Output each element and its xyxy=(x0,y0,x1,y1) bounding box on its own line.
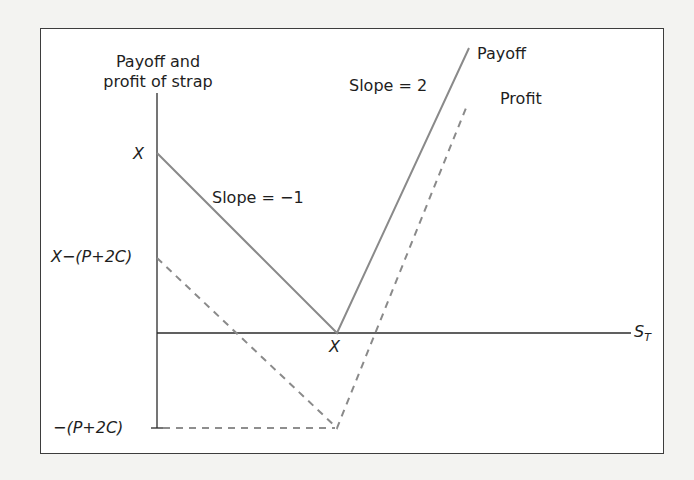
y-axis-title-line1: Payoff and xyxy=(88,52,228,72)
profit-label: Profit xyxy=(500,91,542,107)
y-axis-title: Payoff and profit of strap xyxy=(88,52,228,92)
x-axis-label: ST xyxy=(634,324,651,343)
y-tick-strike-minus-cost: X−(P+2C) xyxy=(51,249,132,265)
left-slope-label: Slope = −1 xyxy=(212,190,304,206)
x-tick-strike: X xyxy=(329,339,340,355)
payoff-label: Payoff xyxy=(477,46,526,62)
x-axis-label-main: S xyxy=(634,322,644,341)
y-axis-title-line2: profit of strap xyxy=(88,72,228,92)
y-tick-strike: X xyxy=(133,146,144,162)
right-slope-label: Slope = 2 xyxy=(349,78,427,94)
y-tick-neg-cost: −(P+2C) xyxy=(53,420,123,436)
x-axis-label-sub: T xyxy=(644,331,651,344)
